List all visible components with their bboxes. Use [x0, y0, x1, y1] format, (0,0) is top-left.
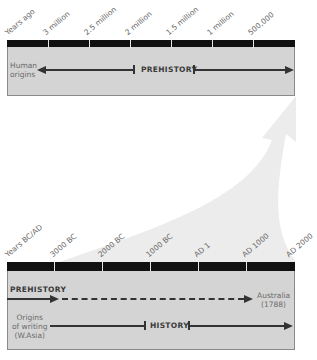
- label-line: Human: [10, 61, 37, 70]
- arrow-right-icon: [284, 322, 293, 330]
- top-scale-bar: [7, 40, 295, 47]
- tick-divider: [246, 262, 247, 271]
- line-cap: [144, 321, 146, 330]
- australia-label: Australia (1788): [257, 291, 290, 309]
- prehistory-label: PREHISTORY: [10, 285, 66, 294]
- label-line: of writing: [12, 322, 47, 331]
- tick-divider: [253, 40, 254, 48]
- prehistory-line-right: [194, 69, 286, 71]
- label-line: (W.Asia): [12, 331, 47, 340]
- tick-divider: [150, 262, 151, 271]
- arrow-right-icon: [285, 66, 294, 74]
- origins-of-writing-label: Origins of writing (W.Asia): [12, 313, 47, 340]
- bottom-scale-bar: [7, 262, 295, 271]
- arrow-right-icon: [244, 295, 253, 303]
- history-line-right: [189, 325, 285, 327]
- arrow-right-icon: [50, 295, 59, 303]
- prehistory-line-left: [44, 69, 134, 71]
- prehistory-dashed-line: [62, 298, 244, 300]
- human-origins-label: Human origins: [10, 61, 37, 79]
- tick-divider: [130, 40, 131, 48]
- label-line: (1788): [257, 300, 290, 309]
- tick-divider: [102, 262, 103, 271]
- history-label: HISTORY: [150, 321, 189, 330]
- line-cap: [133, 65, 135, 74]
- tick-divider: [198, 262, 199, 271]
- tick-divider: [171, 40, 172, 48]
- tick-divider: [212, 40, 213, 48]
- label-line: origins: [10, 70, 37, 79]
- label-line: Origins: [12, 313, 47, 322]
- prehistory-label: PREHISTORY: [141, 65, 197, 74]
- label-line: Australia: [257, 291, 290, 300]
- prehistory-solid-line: [7, 298, 52, 300]
- tick-divider: [54, 262, 55, 271]
- history-line-left: [50, 325, 145, 327]
- tick-divider: [48, 40, 49, 48]
- tick-divider: [89, 40, 90, 48]
- bottom-timeline-box: [7, 262, 295, 350]
